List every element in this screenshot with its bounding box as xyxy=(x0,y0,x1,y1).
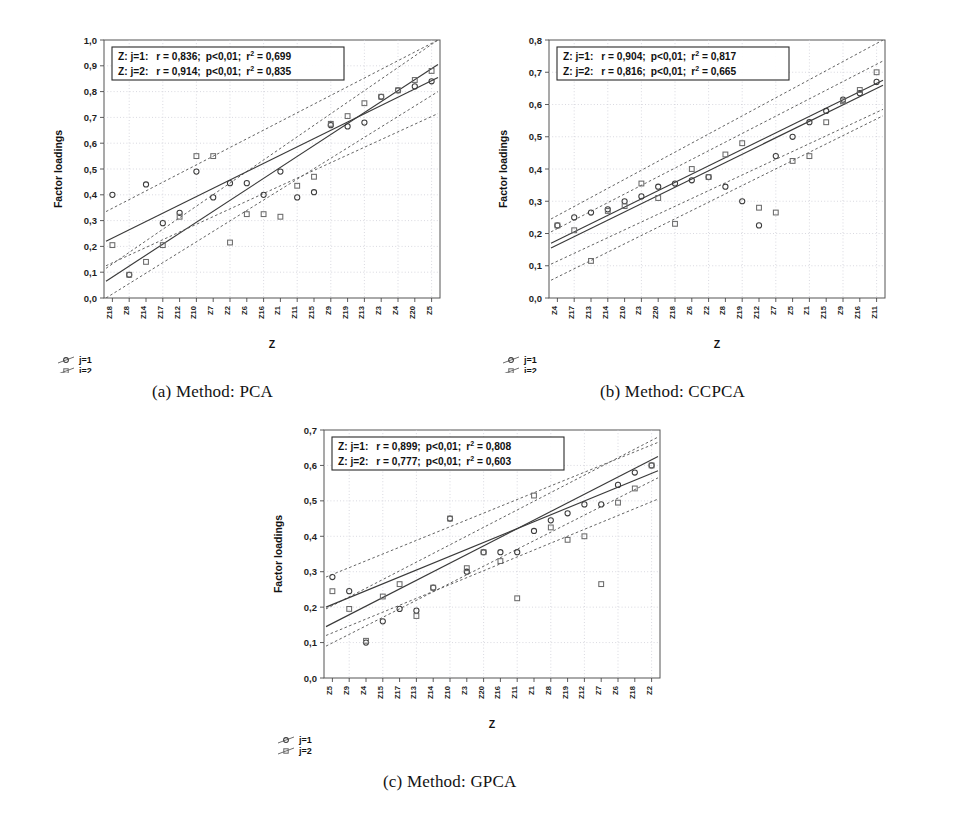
legend-label: j=2 xyxy=(523,366,537,373)
x-tick-label: Z20 xyxy=(651,306,660,319)
x-tick-label: Z6 xyxy=(240,306,249,315)
x-tick-label: Z2 xyxy=(223,306,232,315)
x-tick-label: Z4 xyxy=(391,305,400,315)
x-tick-label: Z7 xyxy=(594,686,603,695)
y-tick-label: 0,2 xyxy=(304,602,317,613)
x-tick-label: Z14 xyxy=(139,305,148,319)
x-tick-label: Z11 xyxy=(290,305,299,318)
x-tick-label: Z19 xyxy=(561,686,570,699)
x-tick-label: Z6 xyxy=(611,686,620,695)
x-tick-label: Z8 xyxy=(718,306,727,315)
y-tick-label: 0,4 xyxy=(529,164,543,175)
x-tick-label: Z13 xyxy=(409,686,418,699)
x-tick-label: Z14 xyxy=(601,305,610,319)
x-tick-label: Z8 xyxy=(544,686,553,695)
y-tick-label: 0,5 xyxy=(84,164,98,175)
x-axis-title: Z xyxy=(269,338,276,350)
x-tick-label: Z7 xyxy=(206,306,215,315)
legend-label: j=2 xyxy=(298,746,312,756)
y-tick-label: 0,8 xyxy=(529,35,542,46)
y-tick-label: 0,4 xyxy=(304,531,318,542)
legend-label: j=1 xyxy=(78,355,92,365)
y-tick-label: 0,4 xyxy=(84,189,98,200)
legend-label: j=1 xyxy=(523,355,537,365)
x-tick-label: Z10 xyxy=(443,686,452,699)
x-tick-label: Z18 xyxy=(668,306,677,319)
y-tick-label: 0,7 xyxy=(84,112,97,123)
y-tick-label: 0,7 xyxy=(304,425,317,436)
scatter-plot-c: 0,00,10,20,30,40,50,60,7Factor loadingsZ… xyxy=(268,408,688,763)
x-tick-label: Z10 xyxy=(189,306,198,319)
caption-pca: (a) Method: PCA xyxy=(152,382,273,402)
x-tick-label: Z2 xyxy=(645,686,654,695)
panel-pca: 0,00,10,20,30,40,50,60,70,80,91,0Factor … xyxy=(48,18,468,373)
panel-gpca: 0,00,10,20,30,40,50,60,7Factor loadingsZ… xyxy=(268,408,688,763)
x-tick-label: Z17 xyxy=(567,306,576,319)
x-tick-label: Z12 xyxy=(577,686,586,699)
x-tick-label: Z16 xyxy=(257,306,266,319)
x-tick-label: Z19 xyxy=(341,306,350,319)
x-tick-label: Z5 xyxy=(786,305,795,315)
x-tick-label: Z1 xyxy=(802,305,811,315)
y-tick-label: 0,1 xyxy=(529,260,543,271)
x-axis-title: Z xyxy=(714,338,721,350)
x-tick-label: Z13 xyxy=(357,306,366,319)
x-tick-label: Z10 xyxy=(618,306,627,319)
scatter-plot-b: 0,00,10,20,30,40,50,60,70,8Factor loadin… xyxy=(493,18,913,373)
y-axis-title: Factor loadings xyxy=(52,130,64,208)
legend-label: j=2 xyxy=(78,366,92,373)
x-tick-label: Z9 xyxy=(324,306,333,315)
y-tick-label: 0,3 xyxy=(304,566,317,577)
x-tick-label: Z2 xyxy=(702,306,711,315)
y-tick-label: 0,3 xyxy=(84,215,97,226)
y-tick-label: 0,0 xyxy=(529,293,542,304)
x-tick-label: Z7 xyxy=(769,306,778,315)
y-tick-label: 0,1 xyxy=(304,637,318,648)
x-tick-label: Z12 xyxy=(752,306,761,319)
x-tick-label: Z20 xyxy=(408,306,417,319)
x-tick-label: Z6 xyxy=(685,306,694,315)
y-tick-label: 0,2 xyxy=(529,228,542,239)
x-tick-label: Z12 xyxy=(173,306,182,319)
y-tick-label: 0,8 xyxy=(84,86,97,97)
x-tick-label: Z8 xyxy=(122,306,131,315)
legend-label: j=1 xyxy=(298,735,312,745)
scatter-plot-a: 0,00,10,20,30,40,50,60,70,80,91,0Factor … xyxy=(48,18,468,373)
x-tick-label: Z1 xyxy=(527,685,536,695)
x-tick-label: Z5 xyxy=(425,305,434,315)
x-tick-label: Z18 xyxy=(628,686,637,699)
y-tick-label: 0,6 xyxy=(304,460,317,471)
x-tick-label: Z15 xyxy=(376,685,385,699)
x-tick-label: Z9 xyxy=(342,686,351,695)
y-tick-label: 1,0 xyxy=(84,35,97,46)
y-tick-label: 0,0 xyxy=(84,293,97,304)
x-tick-label: Z16 xyxy=(853,306,862,319)
y-axis-title: Factor loadings xyxy=(497,130,509,208)
x-tick-label: Z15 xyxy=(307,305,316,319)
x-tick-label: Z18 xyxy=(105,306,114,319)
x-axis-title: Z xyxy=(489,718,496,730)
y-tick-label: 0,7 xyxy=(529,67,542,78)
y-tick-label: 0,6 xyxy=(84,138,97,149)
y-tick-label: 0,2 xyxy=(84,241,97,252)
y-tick-label: 0,1 xyxy=(84,267,98,278)
figure-root: 0,00,10,20,30,40,50,60,70,80,91,0Factor … xyxy=(0,0,963,836)
x-tick-label: Z14 xyxy=(426,685,435,699)
x-tick-label: Z15 xyxy=(819,305,828,319)
y-tick-label: 0,0 xyxy=(304,673,317,684)
x-tick-label: Z16 xyxy=(493,686,502,699)
x-tick-label: Z3 xyxy=(460,686,469,695)
y-tick-label: 0,5 xyxy=(529,131,543,142)
x-tick-label: Z11 xyxy=(870,305,879,318)
x-tick-label: Z4 xyxy=(550,305,559,315)
y-tick-label: 0,5 xyxy=(304,495,318,506)
x-tick-label: Z11 xyxy=(510,685,519,698)
caption-gpca: (c) Method: GPCA xyxy=(383,772,517,792)
panel-ccpca: 0,00,10,20,30,40,50,60,70,8Factor loadin… xyxy=(493,18,913,373)
y-tick-label: 0,6 xyxy=(529,99,542,110)
x-tick-label: Z3 xyxy=(374,306,383,315)
x-tick-label: Z17 xyxy=(393,686,402,699)
x-tick-label: Z13 xyxy=(584,306,593,319)
y-tick-label: 0,3 xyxy=(529,196,542,207)
x-tick-label: Z3 xyxy=(634,306,643,315)
